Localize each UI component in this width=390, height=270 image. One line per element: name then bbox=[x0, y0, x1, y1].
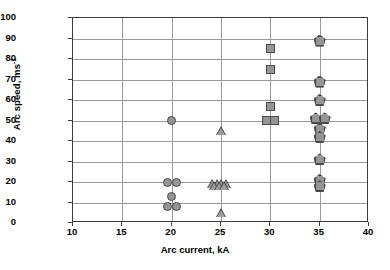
square-marker-icon bbox=[266, 44, 275, 53]
y-tick-label: 70 bbox=[0, 74, 16, 84]
y-tick-label: 10 bbox=[0, 197, 16, 207]
y-tick-label: 0 bbox=[0, 217, 16, 227]
pentagon-marker-icon bbox=[314, 76, 326, 88]
x-tick-label: 20 bbox=[151, 226, 191, 237]
triangle-marker-icon bbox=[216, 208, 226, 217]
x-tick-mark bbox=[121, 222, 122, 226]
y-tick-label: 80 bbox=[0, 53, 16, 63]
circle-marker-icon bbox=[163, 178, 172, 187]
data-point-triangle bbox=[216, 208, 226, 217]
data-point-pentagon bbox=[314, 94, 326, 106]
square-marker-icon bbox=[266, 65, 275, 74]
pentagon-marker-icon bbox=[314, 180, 326, 192]
pentagon-marker-icon bbox=[314, 94, 326, 106]
x-tick-label: 10 bbox=[52, 226, 92, 237]
circle-marker-icon bbox=[167, 192, 176, 201]
plot-area bbox=[72, 17, 368, 222]
y-tick-label: 40 bbox=[0, 135, 16, 145]
x-tick-label: 30 bbox=[249, 226, 289, 237]
data-point-square bbox=[266, 65, 275, 74]
square-marker-icon bbox=[266, 102, 275, 111]
data-point-circle bbox=[167, 116, 176, 125]
x-tick-mark bbox=[72, 222, 73, 226]
y-tick-label: 100 bbox=[0, 12, 16, 22]
data-point-circle bbox=[163, 202, 172, 211]
circle-marker-icon bbox=[172, 202, 181, 211]
pentagon-marker-icon bbox=[314, 153, 326, 165]
data-point-pentagon bbox=[314, 35, 326, 47]
x-tick-mark bbox=[368, 222, 369, 226]
circle-marker-icon bbox=[163, 202, 172, 211]
triangle-marker-icon bbox=[219, 181, 229, 190]
triangle-marker-icon bbox=[216, 126, 226, 135]
pentagon-marker-icon bbox=[314, 35, 326, 47]
gridline-horizontal bbox=[73, 203, 367, 204]
data-point-circle bbox=[172, 178, 181, 187]
x-tick-label: 15 bbox=[101, 226, 141, 237]
y-tick-label: 50 bbox=[0, 115, 16, 125]
gridline-vertical bbox=[221, 18, 222, 221]
data-point-square bbox=[266, 102, 275, 111]
y-tick-label: 90 bbox=[0, 33, 16, 43]
data-point-pentagon bbox=[314, 131, 326, 143]
circle-marker-icon bbox=[172, 178, 181, 187]
data-point-circle bbox=[172, 202, 181, 211]
data-point-square bbox=[266, 44, 275, 53]
data-point-triangle bbox=[219, 181, 229, 190]
x-tick-label: 25 bbox=[200, 226, 240, 237]
y-tick-label: 20 bbox=[0, 176, 16, 186]
x-tick-mark bbox=[220, 222, 221, 226]
data-point-pentagon bbox=[314, 76, 326, 88]
gridline-horizontal bbox=[73, 59, 367, 60]
square-marker-icon bbox=[270, 116, 279, 125]
pentagon-marker-icon bbox=[314, 131, 326, 143]
x-tick-label: 40 bbox=[348, 226, 388, 237]
x-axis-title: Arc current, kA bbox=[0, 244, 390, 255]
data-point-pentagon bbox=[314, 153, 326, 165]
x-tick-mark bbox=[171, 222, 172, 226]
data-point-circle bbox=[163, 178, 172, 187]
y-tick-label: 30 bbox=[0, 156, 16, 166]
data-point-square bbox=[270, 116, 279, 125]
y-tick-label: 60 bbox=[0, 94, 16, 104]
x-tick-mark bbox=[269, 222, 270, 226]
x-tick-mark bbox=[319, 222, 320, 226]
circle-marker-icon bbox=[167, 116, 176, 125]
x-tick-label: 35 bbox=[299, 226, 339, 237]
data-point-circle bbox=[167, 192, 176, 201]
data-point-pentagon bbox=[314, 180, 326, 192]
gridline-vertical bbox=[122, 18, 123, 221]
chart-figure: Arc speed, ms-1 Arc current, kA 01020304… bbox=[0, 0, 390, 270]
data-point-triangle bbox=[216, 126, 226, 135]
